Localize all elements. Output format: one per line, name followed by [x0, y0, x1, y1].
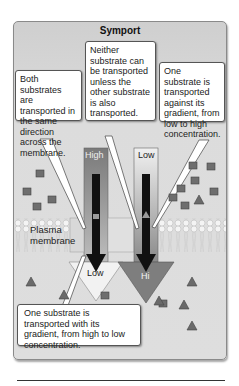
symport-diagram-panel: Symport [13, 21, 227, 360]
left-gradient-bottom-label: Low [87, 268, 104, 278]
callout-coupled-transport: Neither substrate can be transported unl… [85, 41, 156, 121]
right-gradient-bottom-label: Hi [141, 271, 150, 281]
callout-same-direction: Both substrates are transported in the s… [15, 70, 82, 121]
square-substrate-in-transit [93, 214, 99, 219]
plasma-membrane-label: Plasma membrane [30, 224, 70, 246]
divider-rule [17, 380, 225, 381]
left-gradient-top-label: High [85, 150, 104, 160]
callout-with-gradient: One substrate is transported with its gr… [17, 304, 141, 346]
callout-against-gradient: One substrate is transported against its… [159, 62, 225, 122]
right-gradient-top-label: Low [138, 150, 155, 160]
